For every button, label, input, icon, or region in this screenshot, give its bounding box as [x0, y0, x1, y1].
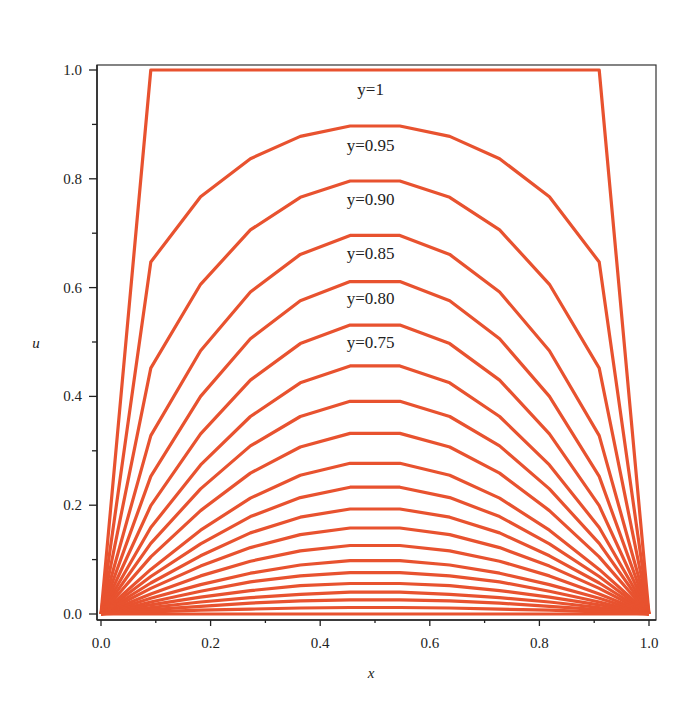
- x-tick-label: 0.2: [201, 635, 220, 651]
- x-tick-label: 0.0: [92, 635, 111, 651]
- curve-label: y=0.95: [347, 136, 395, 155]
- y-axis: 0.00.20.40.60.81.0: [63, 62, 97, 622]
- y-tick-label: 0.2: [63, 497, 82, 513]
- curve-annotations: y=1y=0.95y=0.90y=0.85y=0.80y=0.75: [347, 80, 395, 352]
- x-tick-label: 0.8: [530, 635, 549, 651]
- x-tick-label: 0.6: [420, 635, 439, 651]
- y-tick-label: 0.8: [63, 171, 82, 187]
- curve-label: y=0.85: [347, 244, 395, 263]
- x-tick-label: 0.4: [311, 635, 330, 651]
- chart: 0.00.20.40.60.81.0 0.00.20.40.60.81.0 y=…: [0, 0, 692, 708]
- curve-label: y=0.75: [347, 333, 395, 352]
- curve-line: [101, 366, 649, 614]
- y-tick-label: 0.0: [63, 606, 82, 622]
- x-tick-label: 1.0: [640, 635, 659, 651]
- x-axis-label: x: [367, 665, 375, 681]
- y-tick-label: 0.4: [63, 388, 82, 404]
- curve-label: y=0.90: [347, 190, 395, 209]
- curve-label: y=1: [357, 80, 384, 99]
- curve-line: [101, 325, 649, 614]
- curve-label: y=0.80: [347, 289, 395, 308]
- y-tick-label: 0.6: [63, 280, 82, 296]
- x-axis: 0.00.20.40.60.81.0: [92, 620, 659, 651]
- y-tick-label: 1.0: [63, 62, 82, 78]
- y-axis-label: u: [32, 335, 40, 351]
